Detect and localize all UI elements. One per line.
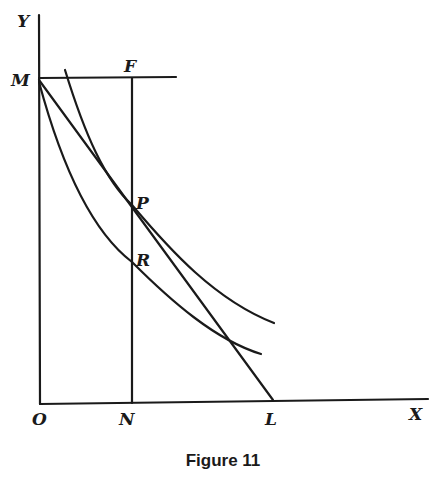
upper-curve	[65, 70, 274, 323]
figure-caption: Figure 11	[186, 451, 261, 470]
lower-curve	[39, 82, 261, 354]
y-axis	[39, 15, 40, 404]
label-Y: Y	[17, 11, 31, 31]
label-M: M	[10, 70, 31, 90]
label-R: R	[135, 250, 150, 270]
label-L: L	[264, 409, 277, 429]
figure-11-diagram: Y M F P R O N L X Figure 11	[0, 0, 445, 482]
line-ML	[39, 80, 273, 400]
label-N: N	[118, 409, 136, 429]
line-MF	[39, 77, 176, 78]
label-F: F	[123, 56, 138, 76]
label-O: O	[32, 409, 47, 429]
label-X: X	[408, 404, 423, 424]
x-axis	[40, 399, 428, 404]
label-P: P	[135, 193, 150, 213]
